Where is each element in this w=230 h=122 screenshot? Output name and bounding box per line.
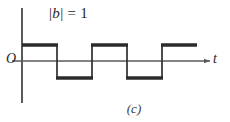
t-axis-arrowhead	[204, 59, 210, 63]
square-wave-figure: |b| = 1 O t (c)	[0, 0, 230, 122]
figure-caption: (c)	[118, 102, 150, 115]
t-axis-label: t	[213, 52, 217, 66]
origin-label: O	[6, 52, 16, 66]
amplitude-label: |b| = 1	[49, 6, 88, 21]
amplitude-variable: b	[52, 5, 60, 21]
amplitude-equals: =	[63, 5, 80, 21]
amplitude-value: 1	[80, 5, 88, 21]
waveform-plot	[0, 0, 230, 122]
